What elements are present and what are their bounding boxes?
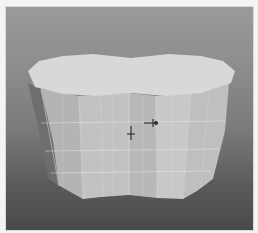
viewport-frame: 3D viewport - perspective — [0, 0, 258, 233]
mesh-face-top[interactable] — [28, 54, 235, 96]
mesh-face-mid-left[interactable] — [79, 93, 129, 199]
3d-viewport[interactable]: 3D viewport - perspective — [5, 6, 254, 231]
scene-canvas[interactable] — [6, 7, 253, 230]
